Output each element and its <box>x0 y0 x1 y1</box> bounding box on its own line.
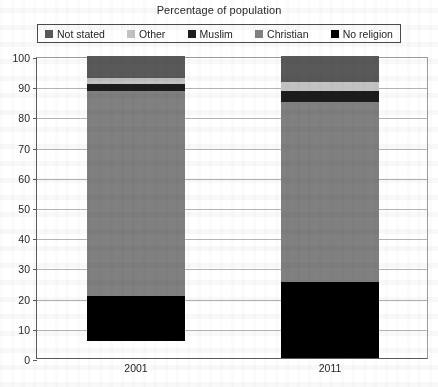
legend-item-christian: Christian <box>255 28 308 40</box>
legend-item-label: Not stated <box>57 28 105 40</box>
y-tick-mark <box>33 330 37 331</box>
y-axis-tick-label: 0 <box>24 355 30 366</box>
legend-swatch-icon <box>255 30 263 38</box>
legend-item-muslim: Muslim <box>188 28 233 40</box>
legend-item-other: Other <box>127 28 165 40</box>
y-axis-tick-label: 90 <box>18 83 30 94</box>
bar-segment-christian[interactable] <box>87 91 185 296</box>
legend-item-label: Other <box>139 28 165 40</box>
y-tick-mark <box>33 149 37 150</box>
bar-segment-other[interactable] <box>281 82 379 91</box>
bar-segment-not-stated[interactable] <box>281 56 379 82</box>
bar-segment-no-religion[interactable] <box>87 296 185 341</box>
bar-segment-not-stated[interactable] <box>87 56 185 78</box>
legend-swatch-icon <box>127 30 135 38</box>
x-axis-tick-label: 2001 <box>87 362 185 374</box>
chart-legend: Not statedOtherMuslimChristianNo religio… <box>37 24 401 43</box>
y-tick-mark <box>33 88 37 89</box>
y-tick-mark <box>33 58 37 59</box>
legend-item-label: Christian <box>267 28 308 40</box>
bar-segment-no-religion[interactable] <box>281 282 379 358</box>
y-axis-tick-label: 40 <box>18 234 30 245</box>
y-tick-mark <box>33 300 37 301</box>
y-axis-tick-label: 80 <box>18 113 30 124</box>
y-tick-mark <box>33 269 37 270</box>
y-tick-mark <box>33 360 37 361</box>
legend-swatch-icon <box>45 30 53 38</box>
y-axis-tick-label: 60 <box>18 174 30 185</box>
y-tick-mark <box>33 239 37 240</box>
legend-item-label: Muslim <box>200 28 233 40</box>
plot-area: 010203040506070809010020012011 <box>36 57 428 359</box>
y-axis-tick-label: 20 <box>18 294 30 305</box>
legend-item-label: No religion <box>343 28 393 40</box>
y-tick-mark <box>33 118 37 119</box>
bar-2001[interactable] <box>87 56 185 358</box>
y-axis-tick-label: 100 <box>12 53 30 64</box>
y-tick-mark <box>33 179 37 180</box>
legend-swatch-icon <box>331 30 339 38</box>
y-tick-mark <box>33 209 37 210</box>
y-axis-tick-label: 10 <box>18 325 30 336</box>
bar-segment-muslim[interactable] <box>87 84 185 91</box>
bar-segment-muslim[interactable] <box>281 91 379 102</box>
legend-swatch-icon <box>188 30 196 38</box>
chart-title: Percentage of population <box>0 4 438 16</box>
y-axis-tick-label: 30 <box>18 264 30 275</box>
legend-item-not-stated: Not stated <box>45 28 105 40</box>
bar-segment-christian[interactable] <box>281 102 379 282</box>
y-axis-tick-label: 70 <box>18 143 30 154</box>
chart-container: Percentage of population Not statedOther… <box>0 0 438 387</box>
y-axis-tick-label: 50 <box>18 204 30 215</box>
bar-2011[interactable] <box>281 56 379 358</box>
legend-item-no-religion: No religion <box>331 28 393 40</box>
x-axis-tick-label: 2011 <box>281 362 379 374</box>
